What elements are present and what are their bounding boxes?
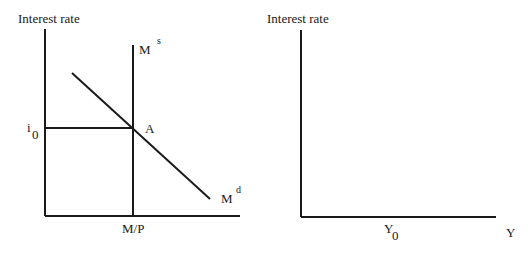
- right-y-axis-label: Interest rate: [267, 11, 329, 26]
- money-market-panel: Interest rate M s A i 0 M d M/P: [18, 11, 241, 236]
- rate-label: i: [27, 120, 31, 135]
- output-panel: Interest rate Y 0 Y: [267, 11, 516, 243]
- money-demand-curve: [72, 73, 210, 199]
- money-demand-label: M: [221, 191, 233, 206]
- right-x-axis-label: Y: [506, 225, 516, 240]
- left-y-axis-label: Interest rate: [18, 11, 80, 26]
- output-subscript: 0: [392, 228, 399, 243]
- money-demand-superscript: d: [236, 184, 241, 195]
- rate-subscript: 0: [32, 127, 39, 142]
- left-x-axis-label: M/P: [122, 221, 144, 236]
- money-supply-superscript: s: [157, 35, 161, 46]
- equilibrium-point-label: A: [145, 121, 155, 136]
- money-supply-label: M: [139, 42, 151, 57]
- diagram-canvas: Interest rate M s A i 0 M d M/P Interest…: [0, 0, 528, 257]
